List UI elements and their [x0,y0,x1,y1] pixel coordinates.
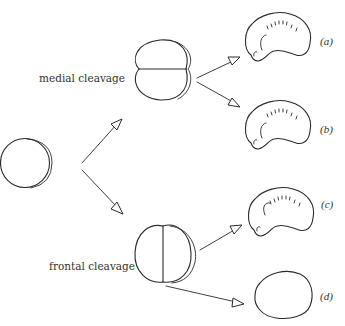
arrow-frontal-to-c [200,225,242,250]
somite-marks [267,21,297,31]
arrow-frontal-to-d [166,286,244,307]
arrow-medial-to-a [197,57,240,78]
arrow-medial-to-b [197,82,240,107]
embryo-d-blob [255,271,312,318]
frontal-cleavage-embryo [135,225,196,283]
outcome-tag-a: (a) [320,35,333,48]
embryo-a [245,13,310,61]
embryo-b [245,101,310,149]
egg-cell [1,139,53,189]
arrow-egg-to-frontal [82,170,123,214]
medial-cleavage-embryo [135,40,190,100]
outcome-tag-c: (c) [321,198,334,211]
somite-marks [270,196,300,206]
outcome-tag-d: (d) [320,290,333,303]
somite-marks [267,109,297,119]
outcome-tag-b: (b) [320,123,333,136]
arrow-egg-to-medial [82,119,122,163]
frontal-cleavage-label: frontal cleavage [49,260,135,272]
cleavage-diagram: medial cleavage (a) [0,0,345,326]
medial-cleavage-label: medial cleavage [39,72,125,84]
embryo-c [248,188,313,236]
